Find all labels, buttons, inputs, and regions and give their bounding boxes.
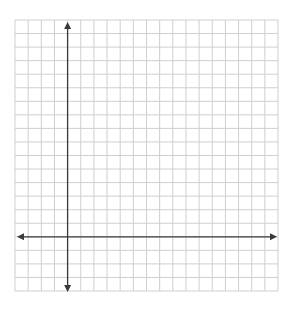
coordinate-plane (0, 0, 289, 312)
grid-lines (15, 20, 278, 291)
arrow-left-icon (17, 233, 24, 240)
arrow-right-icon (270, 233, 277, 240)
arrow-up-icon (64, 22, 71, 29)
